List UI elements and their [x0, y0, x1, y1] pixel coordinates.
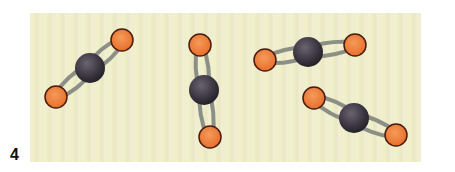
- molecules-diagram: [0, 0, 455, 172]
- co2-molecule: [45, 29, 133, 108]
- co2-molecule: [189, 34, 221, 148]
- oxygen-atom: [199, 126, 221, 148]
- co2-molecule: [254, 34, 366, 71]
- carbon-atom: [75, 53, 105, 83]
- carbon-atom: [339, 103, 369, 133]
- carbon-atom: [293, 37, 323, 67]
- co2-molecule: [303, 87, 407, 146]
- oxygen-atom: [45, 86, 67, 108]
- oxygen-atom: [111, 29, 133, 51]
- carbon-atom: [189, 75, 219, 105]
- oxygen-atom: [254, 49, 276, 71]
- oxygen-atom: [344, 34, 366, 56]
- oxygen-atom: [385, 124, 407, 146]
- oxygen-atom: [303, 87, 325, 109]
- oxygen-atom: [189, 34, 211, 56]
